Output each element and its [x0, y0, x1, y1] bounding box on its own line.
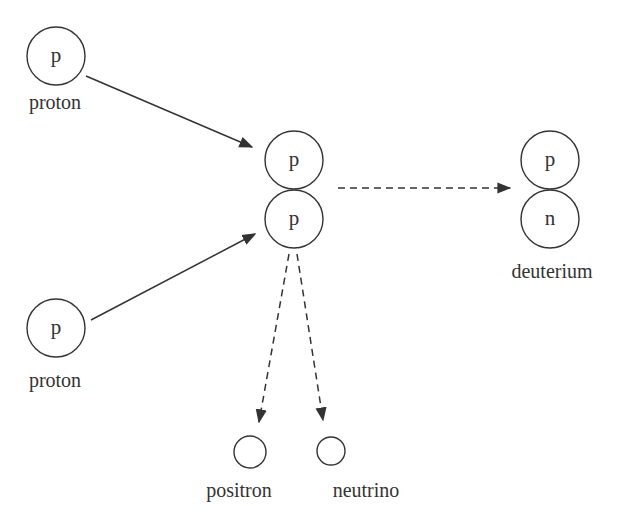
pair-bottom-letter: p	[289, 206, 300, 230]
positron-label: positron	[206, 479, 272, 502]
proton-pair-node: p p	[265, 131, 323, 248]
neutrino-circle	[317, 437, 345, 465]
arrow-pair-to-positron	[259, 254, 289, 422]
proton-letter: p	[51, 315, 62, 339]
proton-label: proton	[29, 369, 81, 392]
pair-top-letter: p	[289, 147, 300, 171]
arrow-proton-top-to-pair	[86, 76, 252, 147]
proton-bottom-node: p proton	[27, 299, 85, 392]
arrow-pair-to-neutrino	[297, 254, 323, 420]
arrow-proton-bottom-to-pair	[91, 234, 255, 320]
proton-label: proton	[29, 91, 81, 114]
positron-circle	[234, 436, 266, 468]
positron-node: positron	[206, 436, 272, 502]
neutrino-label: neutrino	[333, 479, 400, 501]
proton-top-node: p proton	[27, 27, 85, 114]
proton-fusion-diagram: p proton p proton p p p n deuterium	[0, 0, 620, 522]
proton-letter: p	[51, 43, 62, 67]
neutrino-node: neutrino	[317, 437, 399, 501]
diagram-canvas: p proton p proton p p p n deuterium	[0, 0, 620, 522]
deuterium-node: p n deuterium	[511, 131, 593, 282]
deuterium-label: deuterium	[511, 260, 593, 282]
deuterium-proton-letter: p	[545, 147, 556, 171]
deuterium-neutron-letter: n	[545, 206, 556, 230]
